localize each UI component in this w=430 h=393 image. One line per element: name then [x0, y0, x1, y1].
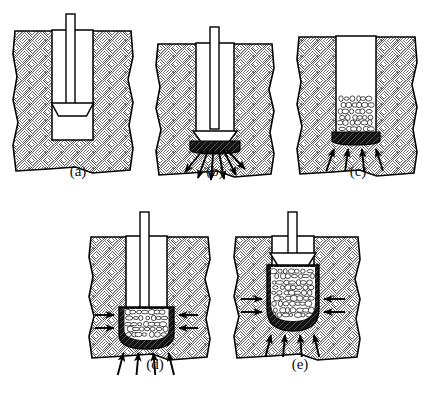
- aggregate-stone: [159, 310, 165, 314]
- aggregate-stone: [361, 121, 368, 125]
- aggregate-stone: [126, 316, 133, 320]
- aggregate-stone: [308, 285, 314, 289]
- aggregate-stone: [156, 327, 162, 330]
- aggregate-stone: [149, 332, 154, 338]
- panel-caption-b: (b): [206, 163, 224, 180]
- aggregate-stone: [283, 302, 289, 306]
- aggregate-stone: [277, 313, 282, 318]
- tamper-rod: [210, 27, 219, 129]
- compacted-bulb: [190, 141, 240, 154]
- aggregate-stone: [368, 103, 374, 108]
- aggregate-stone: [139, 327, 144, 331]
- bearing-stress-arrow-2: [137, 353, 139, 375]
- aggregate-stone: [355, 120, 361, 125]
- aggregate-stone: [367, 127, 374, 131]
- aggregate-stone: [290, 301, 296, 306]
- aggregate-stone: [308, 296, 314, 300]
- aggregate-stone: [294, 291, 300, 295]
- aggregate-stone: [353, 115, 357, 120]
- aggregate-stone: [357, 116, 362, 120]
- aggregate-stone: [150, 327, 155, 331]
- aggregate-stone: [154, 332, 160, 337]
- aggregate-stone: [307, 270, 313, 273]
- panel-a: [13, 14, 133, 173]
- aggregate-stone: [301, 290, 306, 295]
- aggregate-stone: [277, 291, 282, 295]
- aggregate-stone: [285, 274, 290, 279]
- aggregate-stone: [273, 308, 277, 313]
- aggregate-stone: [343, 120, 348, 126]
- aggregate-stone: [291, 274, 297, 278]
- aggregate-stone: [142, 333, 147, 336]
- aggregate-stone: [361, 97, 366, 101]
- aggregate-stone: [357, 96, 361, 102]
- aggregate-stone: [280, 286, 284, 290]
- aggregate-fill: [336, 93, 377, 137]
- aggregate-stone: [344, 97, 349, 100]
- aggregate-stone: [360, 109, 365, 114]
- aggregate-stone: [362, 116, 367, 120]
- aggregate-stone: [290, 295, 297, 301]
- aggregate-stone: [132, 327, 139, 330]
- aggregate-stone: [341, 103, 346, 108]
- aggregate-stone: [282, 313, 289, 317]
- panel-group: [13, 14, 417, 375]
- aggregate-stone: [362, 102, 368, 107]
- aggregate-stone: [289, 314, 293, 317]
- aggregate-stone: [346, 102, 352, 107]
- panel-d: [89, 212, 210, 375]
- aggregate-stone: [366, 96, 372, 101]
- aggregate-stone: [350, 109, 354, 114]
- aggregate-stone: [368, 115, 373, 120]
- aggregate-stone: [290, 308, 296, 313]
- aggregate-stone: [351, 127, 357, 131]
- aggregate-stone: [297, 296, 303, 301]
- aggregate-stone: [131, 323, 138, 326]
- aggregate-stone: [286, 307, 290, 313]
- aggregate-stone: [141, 310, 148, 314]
- aggregate-stone: [339, 115, 344, 119]
- aggregate-stone: [308, 290, 312, 296]
- aggregate-stone: [146, 316, 150, 320]
- compacted-base: [332, 132, 380, 145]
- aggregate-stone: [357, 102, 362, 107]
- aggregate-stone: [366, 110, 372, 114]
- tamper-rod: [140, 212, 149, 309]
- aggregate-stone: [303, 285, 308, 290]
- aggregate-pier-construction-figure: (a)(b)(c)(d)(e): [0, 0, 430, 393]
- panel-caption-e: (e): [292, 356, 309, 373]
- aggregate-stone: [276, 281, 284, 285]
- aggregate-stone: [300, 281, 306, 285]
- aggregate-stone: [151, 315, 156, 320]
- aggregate-stone: [130, 310, 136, 314]
- aggregate-stone: [339, 127, 346, 130]
- tamper-foot: [193, 131, 237, 142]
- aggregate-stone: [284, 280, 289, 284]
- aggregate-stone: [278, 269, 282, 273]
- aggregate-stone: [350, 120, 355, 125]
- aggregate-stone: [345, 115, 350, 121]
- aggregate-stone: [305, 301, 312, 307]
- panel-caption-d: (d): [146, 356, 164, 373]
- panel-caption-c: (c): [350, 163, 367, 180]
- aggregate-stone: [301, 269, 305, 273]
- aggregate-stone: [337, 121, 343, 125]
- aggregate-stone: [280, 297, 284, 300]
- panel-b: [156, 27, 274, 180]
- panel-caption-a: (a): [70, 163, 87, 180]
- aggregate-stone: [156, 316, 161, 319]
- aggregate-stone: [163, 326, 168, 331]
- aggregate-stone: [296, 286, 302, 290]
- aggregate-stone: [357, 126, 361, 131]
- aggregate-stone: [161, 316, 168, 319]
- tamper-foot: [270, 253, 316, 266]
- aggregate-stone: [301, 313, 305, 317]
- aggregate-stone: [300, 302, 306, 305]
- tamper-rod: [288, 212, 297, 254]
- aggregate-stone: [307, 280, 313, 285]
- aggregate-stone: [138, 323, 142, 326]
- panel-e: [234, 212, 360, 360]
- tamper-rod: [66, 14, 75, 104]
- aggregate-stone: [342, 109, 349, 114]
- aggregate-stone: [302, 275, 309, 278]
